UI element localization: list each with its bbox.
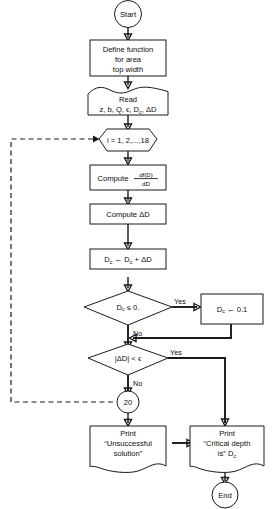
define-line2: for area: [115, 55, 142, 64]
compute-deriv-label: Compute: [98, 174, 129, 183]
node-decision-converged[interactable]: |ΔD| < ϵ: [88, 344, 168, 375]
flowchart-canvas: Start Define function for area top width…: [0, 0, 273, 509]
edge-label-neg-no: No: [133, 329, 142, 338]
read-vars-main: z, b, Q, ϵ, D: [99, 105, 139, 114]
define-line3: top width: [113, 65, 143, 74]
start-label: Start: [120, 10, 137, 19]
node-decision-dc-negative[interactable]: Dc ≤ 0.: [84, 291, 172, 325]
node-compute-derivative[interactable]: Compute df(D) dD: [90, 165, 166, 190]
print-ok-line1: Print: [219, 429, 236, 438]
node-set-dc-min[interactable]: Dc ← 0.1: [201, 294, 263, 324]
update-dc-post: + ΔD: [135, 255, 153, 264]
svg-text:Dc ≤ 0.: Dc ≤ 0.: [117, 303, 140, 313]
read-line1: Read: [119, 95, 137, 104]
svg-text:z, b, Q, ϵ, Dc, ΔD: z, b, Q, ϵ, Dc, ΔD: [99, 105, 157, 115]
edge-label-neg-yes: Yes: [174, 297, 186, 306]
print-ok-line3: is” D: [218, 449, 234, 458]
print-fail-line1: Print: [120, 429, 137, 438]
compute-deriv-denominator: dD: [142, 180, 150, 187]
decision-neg-tail: ≤ 0.: [127, 303, 140, 312]
node-connector-20[interactable]: 20: [117, 391, 139, 413]
node-read[interactable]: Read z, b, Q, ϵ, Dc, ΔD: [88, 87, 168, 115]
end-label: End: [218, 491, 232, 500]
svg-text:Dc ← 0.1: Dc ← 0.1: [217, 305, 248, 315]
connector-20-label: 20: [124, 398, 132, 407]
node-start[interactable]: Start: [115, 1, 142, 28]
node-update-dc[interactable]: Dc ← Dc + ΔD: [90, 249, 166, 269]
node-compute-delta-d[interactable]: Compute ΔD: [90, 204, 166, 224]
compute-deriv-numerator: df(D): [139, 171, 153, 178]
node-print-unsuccessful[interactable]: Print “Unsuccessful solution”: [90, 426, 166, 472]
print-fail-line2: “Unsuccessful: [104, 439, 152, 448]
define-line1: Define function: [103, 45, 154, 54]
loop-label: i = 1, 2,...,18: [107, 136, 149, 145]
node-define-function[interactable]: Define function for area top width: [90, 40, 166, 76]
print-ok-line3-sub: c: [233, 453, 236, 459]
read-vars-tail: , ΔD: [142, 105, 157, 114]
edge-label-conv-no: No: [133, 379, 142, 388]
decision-conv-label: |ΔD| < ϵ: [115, 354, 142, 363]
node-end[interactable]: End: [212, 482, 238, 508]
print-ok-line2: “Critical depth: [204, 439, 251, 448]
compute-dd-label: Compute ΔD: [106, 210, 150, 219]
node-print-critical-depth[interactable]: Print “Critical depth is” Dc: [190, 426, 264, 472]
set-min-post: ← 0.1: [227, 305, 247, 314]
print-fail-line3: solution”: [114, 449, 143, 458]
edge-label-conv-yes: Yes: [170, 348, 182, 357]
update-dc-mid: ← D: [115, 255, 131, 264]
node-loop-counter[interactable]: i = 1, 2,...,18: [99, 129, 157, 151]
flowchart-svg: Start Define function for area top width…: [0, 0, 273, 509]
